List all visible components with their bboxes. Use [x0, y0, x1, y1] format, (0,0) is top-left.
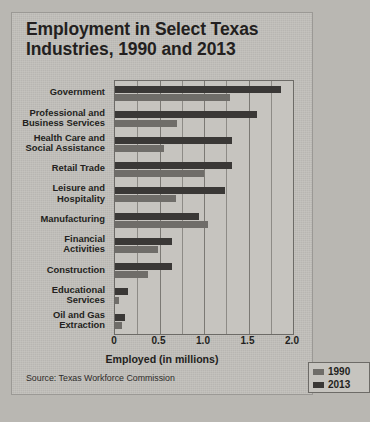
plot-area: 19902013: [114, 80, 294, 335]
bar-group: [115, 208, 293, 233]
category-label: Leisure andHospitality: [9, 183, 105, 203]
legend-item: 1990: [313, 365, 369, 378]
category-axis-labels: GovernmentProfessional andBusiness Servi…: [12, 80, 110, 333]
bar-1990: [115, 271, 148, 278]
bar-2013: [115, 162, 232, 169]
bar-group: [115, 81, 293, 106]
legend-label: 1990: [328, 366, 350, 377]
bar-group: [115, 106, 293, 131]
x-axis-title: Employed (in millions): [12, 353, 312, 365]
bar-1990: [115, 120, 177, 127]
category-label: Construction: [9, 265, 105, 275]
category-label-line: Retail Trade: [9, 163, 105, 173]
bar-2013: [115, 137, 232, 144]
bar-1990: [115, 322, 122, 329]
bar-1990: [115, 195, 176, 202]
legend-swatch: [313, 382, 324, 388]
bar-group: [115, 157, 293, 182]
category-label-line: Services: [9, 295, 105, 305]
x-tick-label: 2.0: [285, 335, 299, 346]
bar-1990: [115, 170, 204, 177]
category-label: Health Care andSocial Assistance: [9, 133, 105, 153]
chart-figure: Employment in Select Texas Industries, 1…: [12, 13, 312, 394]
legend-item: 2013: [313, 378, 369, 391]
bar-1990: [115, 246, 158, 253]
bar-2013: [115, 288, 128, 295]
bar-group: [115, 233, 293, 258]
category-label: FinancialActivities: [9, 234, 105, 254]
bar-2013: [115, 213, 199, 220]
bar-2013: [115, 187, 225, 194]
bar-group: [115, 132, 293, 157]
category-label-line: Extraction: [9, 320, 105, 330]
bar-group: [115, 258, 293, 283]
category-label: Manufacturing: [9, 214, 105, 224]
x-tick-label: 1.5: [241, 335, 255, 346]
bar-group: [115, 182, 293, 207]
bar-group: [115, 309, 293, 334]
chart-legend: 19902013: [308, 362, 370, 393]
category-label-line: Social Assistance: [9, 143, 105, 153]
category-label-line: Hospitality: [9, 194, 105, 204]
category-label: EducationalServices: [9, 285, 105, 305]
category-label: Professional andBusiness Services: [9, 108, 105, 128]
legend-swatch: [313, 369, 324, 375]
category-label: Oil and GasExtraction: [9, 310, 105, 330]
category-label-line: Business Services: [9, 118, 105, 128]
category-label-line: Construction: [9, 265, 105, 275]
x-tick-label: 0: [111, 335, 117, 346]
bar-2013: [115, 263, 172, 270]
bar-2013: [115, 86, 281, 93]
bar-groups: [115, 81, 293, 334]
chart-title: Employment in Select Texas Industries, 1…: [26, 20, 302, 60]
category-label-line: Manufacturing: [9, 214, 105, 224]
bar-2013: [115, 314, 125, 321]
bar-1990: [115, 221, 208, 228]
bar-2013: [115, 238, 172, 245]
legend-label: 2013: [328, 379, 350, 390]
category-label: Retail Trade: [9, 163, 105, 173]
category-label-line: Government: [9, 87, 105, 97]
category-label-line: Activities: [9, 244, 105, 254]
bar-group: [115, 283, 293, 308]
bar-1990: [115, 297, 119, 304]
category-label: Government: [9, 87, 105, 97]
x-tick-label: 1.0: [196, 335, 210, 346]
bar-1990: [115, 145, 164, 152]
bar-2013: [115, 111, 257, 118]
source-note: Source: Texas Workforce Commission: [26, 373, 175, 383]
x-tick-label: 0.5: [152, 335, 166, 346]
bar-1990: [115, 94, 230, 101]
